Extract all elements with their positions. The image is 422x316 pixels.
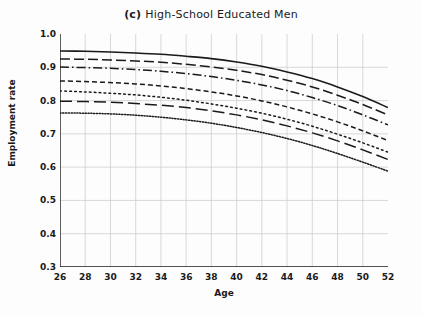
panel-label: (c): [124, 8, 141, 21]
x-tick-label: 46: [300, 272, 324, 282]
y-tick-label: 0.5: [30, 195, 56, 205]
y-tick-label: 0.4: [30, 229, 56, 239]
y-axis-label: Employment rate: [7, 63, 17, 183]
y-tick-label: 0.7: [30, 129, 56, 139]
data-series-group: [60, 51, 388, 171]
x-tick-label: 28: [73, 272, 97, 282]
x-tick-label: 48: [326, 272, 350, 282]
x-tick-label: 40: [225, 272, 249, 282]
y-axis-tick-labels: 1.00.90.80.70.60.50.40.3: [26, 34, 56, 267]
y-tick-label: 0.3: [30, 262, 56, 272]
x-tick-label: 34: [149, 272, 173, 282]
x-tick-label: 36: [174, 272, 198, 282]
grid-lines: [60, 34, 388, 267]
chart-figure: (c)High-School Educated Men Employment r…: [0, 0, 422, 316]
plot-frame: [60, 34, 388, 267]
x-tick-label: 42: [250, 272, 274, 282]
x-tick-label: 30: [98, 272, 122, 282]
plot-canvas: [60, 34, 388, 267]
x-tick-label: 44: [275, 272, 299, 282]
x-tick-label: 50: [351, 272, 375, 282]
x-tick-label: 38: [199, 272, 223, 282]
series-line-cohort-6: [60, 101, 388, 159]
x-tick-label: 52: [376, 272, 400, 282]
y-tick-label: 0.8: [30, 96, 56, 106]
x-tick-label: 26: [48, 272, 72, 282]
plot-area: [60, 34, 388, 267]
series-line-cohort-4: [60, 81, 388, 141]
axis-ticks: [60, 34, 388, 267]
y-tick-label: 0.6: [30, 162, 56, 172]
y-tick-label: 1.0: [30, 29, 56, 39]
x-axis-tick-labels: 2628303234363840424446485052: [60, 272, 388, 286]
x-axis-label: Age: [60, 288, 388, 298]
chart-title-text: High-School Educated Men: [145, 8, 298, 21]
x-tick-label: 32: [124, 272, 148, 282]
chart-title: (c)High-School Educated Men: [0, 8, 422, 21]
y-tick-label: 0.9: [30, 62, 56, 72]
